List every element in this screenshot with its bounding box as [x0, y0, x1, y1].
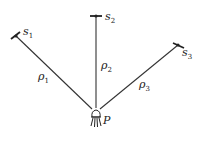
satellite-1-label: s1 [23, 25, 33, 40]
satellite-2-label: s2 [105, 10, 115, 25]
satellite-2-icon [90, 14, 102, 17]
receiver-label: P [102, 114, 111, 127]
receiver-antenna-icon [91, 110, 101, 127]
satellite-3-label: s3 [182, 46, 192, 61]
range-1-label: ρ1 [37, 70, 49, 85]
range-line-1 [16, 36, 92, 109]
range-2-label: ρ2 [100, 59, 112, 74]
range-line-3 [100, 45, 178, 109]
range-diagram: s1 s2 s3 ρ1 ρ2 ρ3 P [0, 0, 202, 143]
range-3-label: ρ3 [138, 78, 150, 93]
